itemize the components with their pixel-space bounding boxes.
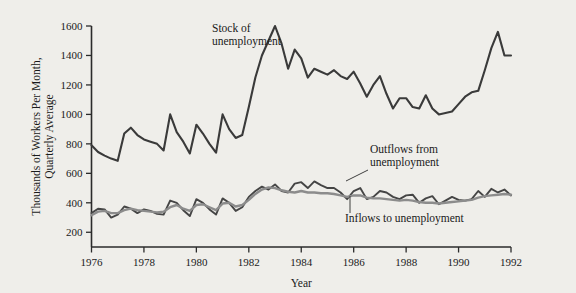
stock-annotation-line-1: Stock of (212, 22, 251, 34)
x-tick-label: 1986 (343, 256, 366, 268)
inflows-annotation-line-1: Inflows to unemployment (345, 212, 465, 225)
labels-group: YearThousands of Workers Per Month,Quart… (30, 22, 465, 289)
outflows-annotation-line-1: Outflows from (370, 143, 438, 155)
outflows-leader-line (346, 170, 368, 181)
stock-annotation-line-2: unemployment (212, 35, 282, 48)
x-tick-label: 1988 (395, 256, 418, 268)
y-tick-label: 1000 (61, 108, 84, 120)
y-tick-label: 800 (66, 138, 83, 150)
x-tick-label: 1980 (185, 256, 208, 268)
x-tick-label: 1990 (448, 256, 471, 268)
x-tick-label: 1978 (133, 256, 156, 268)
y-tick-label: 200 (66, 226, 83, 238)
y-tick-label: 600 (66, 167, 83, 179)
unemployment-flows-chart-figure: 2004006008001000120014001600197619781980… (0, 0, 576, 293)
x-tick-label: 1992 (500, 256, 522, 268)
y-tick-label: 1400 (61, 49, 84, 61)
series-group (92, 26, 512, 218)
x-tick-label: 1984 (290, 256, 313, 268)
chart-canvas: 2004006008001000120014001600197619781980… (0, 0, 576, 293)
x-axis-title: Year (291, 277, 312, 289)
y-tick-label: 1200 (61, 79, 84, 91)
y-tick-label: 1600 (61, 20, 84, 32)
x-tick-label: 1982 (238, 256, 260, 268)
y-tick-label: 400 (66, 197, 83, 209)
outflows-annotation-line-2: unemployment (370, 156, 440, 169)
x-tick-label: 1976 (81, 256, 104, 268)
y-axis-title-line-2: Quarterly Average (43, 94, 56, 178)
series-line-stock-of-unemployment (92, 26, 512, 161)
y-axis-title-line-1: Thousands of Workers Per Month, (30, 57, 43, 215)
